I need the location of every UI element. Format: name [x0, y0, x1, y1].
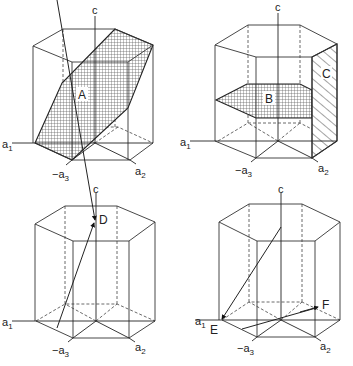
- prism-edges: [35, 206, 155, 338]
- plane-label-c: C: [322, 67, 331, 81]
- axis-label-a3: −a3: [235, 164, 253, 179]
- axis-label-c: c: [93, 183, 99, 195]
- panel-bottom-right: c a1 E F −a3 a2: [195, 183, 340, 357]
- axis-label-a1: a1: [195, 315, 206, 330]
- panel-top-right: C c a1 −a3 a2 B: [180, 1, 337, 179]
- plane-a: [35, 29, 153, 160]
- plane-label-a: A: [78, 88, 86, 102]
- axes: [195, 193, 340, 341]
- axis-label-a2: a2: [318, 162, 329, 177]
- direction-d-vector: [57, 223, 94, 328]
- axis-label-a1: a1: [2, 138, 13, 153]
- prism-edges: [219, 204, 340, 337]
- axis-label-a3: −a3: [237, 342, 255, 357]
- axis-label-a2: a2: [135, 165, 146, 180]
- direction-e-vector: [222, 227, 281, 319]
- axis-label-a3: −a3: [52, 344, 70, 359]
- direction-label-f: F: [322, 298, 329, 312]
- axis-label-a1: a1: [2, 316, 13, 331]
- direction-label-e: E: [210, 323, 218, 337]
- direction-label-d: D: [99, 213, 108, 227]
- axis-label-c: c: [278, 183, 284, 195]
- axes: [12, 193, 155, 342]
- axis-label-a1: a1: [180, 136, 191, 151]
- panel-top-left: c a1 −a3 a2 A: [2, 4, 153, 183]
- axis-label-a2: a2: [320, 340, 331, 355]
- axis-label-a3: −a3: [52, 168, 70, 183]
- hidden-edges: [36, 206, 155, 321]
- plane-label-b: B: [265, 92, 273, 106]
- hexagonal-cells-figure: c a1 −a3 a2 A C c a1 −a3 a2 B c a1 −a3: [0, 0, 353, 366]
- axis-label-a2: a2: [135, 341, 146, 356]
- axis-label-c: c: [275, 1, 281, 13]
- axis-label-c: c: [92, 4, 98, 16]
